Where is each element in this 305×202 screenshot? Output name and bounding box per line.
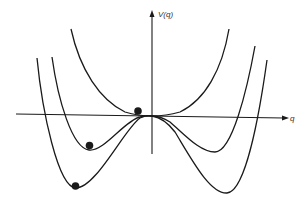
potential-diagram: V(q) q xyxy=(0,0,305,202)
q-axis-arrow-icon xyxy=(282,116,289,121)
single-well-curve xyxy=(71,29,229,116)
ball-deep-well xyxy=(72,182,80,190)
v-axis-label: V(q) xyxy=(158,10,173,19)
q-axis-label: q xyxy=(290,114,295,123)
ball-single-well xyxy=(134,107,142,115)
shallow-double-well-curve xyxy=(52,46,255,152)
ball-shallow-well xyxy=(86,142,94,150)
balls xyxy=(72,107,142,190)
v-axis-arrow-icon xyxy=(150,10,155,17)
